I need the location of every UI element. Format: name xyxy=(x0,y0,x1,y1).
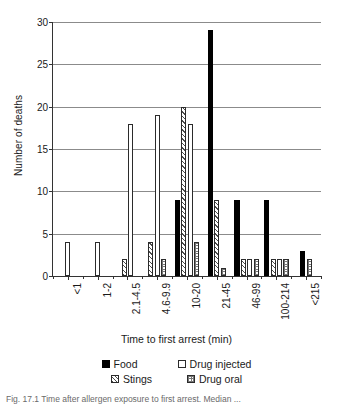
x-tick-minor xyxy=(202,276,203,279)
plot-area: 051015202530 <11-22.1-4.54.6-9.910-2021-… xyxy=(52,22,321,277)
y-axis-title: Number of deaths xyxy=(13,76,24,196)
legend-item-food: Food xyxy=(102,358,164,370)
y-tick-label: 20 xyxy=(37,101,48,112)
chart-legend: Food Drug injected Stings Drug oral xyxy=(0,358,353,388)
bar-stings-6 xyxy=(241,259,246,276)
x-tick-mark xyxy=(68,276,69,280)
bar-food-7 xyxy=(264,200,269,276)
x-tick-minor xyxy=(83,276,84,279)
x-tick-mark xyxy=(306,276,307,280)
x-tick-mark xyxy=(157,276,158,280)
x-tick-minor xyxy=(291,276,292,279)
bar-injected-6 xyxy=(247,259,252,276)
legend-label-drug-injected: Drug injected xyxy=(190,358,252,370)
legend-swatch-drug-oral-icon xyxy=(187,375,195,383)
x-tick-minor xyxy=(261,276,262,279)
bar-stings-4 xyxy=(181,107,186,276)
bar-stings-2 xyxy=(122,259,127,276)
x-tick-mark xyxy=(276,276,277,280)
x-tick-label: 21-45 xyxy=(221,283,232,309)
x-tick-mark xyxy=(217,276,218,280)
legend-item-stings: Stings xyxy=(111,373,173,385)
bar-oral-5 xyxy=(221,268,226,276)
x-tick-mark xyxy=(187,276,188,280)
x-tick-label: 10-20 xyxy=(191,283,202,309)
x-tick-label: 4.6-9.9 xyxy=(161,283,172,314)
legend-label-food: Food xyxy=(114,358,138,370)
bar-food-6 xyxy=(234,200,239,276)
x-tick-minor xyxy=(232,276,233,279)
x-tick-mark xyxy=(98,276,99,280)
x-tick-minor xyxy=(172,276,173,279)
figure-caption: Fig. 17.1 Time after allergen exposure t… xyxy=(6,394,351,404)
x-tick-mark xyxy=(127,276,128,280)
y-tick-label: 30 xyxy=(37,17,48,28)
legend-item-drug-oral: Drug oral xyxy=(187,373,242,385)
legend-item-drug-injected: Drug injected xyxy=(178,358,252,370)
bar-injected-1 xyxy=(95,242,100,276)
x-tick-minor xyxy=(53,276,54,279)
bar-injected-0 xyxy=(65,242,70,276)
bar-oral-6 xyxy=(254,259,259,276)
legend-swatch-food-icon xyxy=(102,360,110,368)
bar-injected-7 xyxy=(277,259,282,276)
x-tick-minor xyxy=(142,276,143,279)
bar-food-4 xyxy=(175,200,180,276)
x-tick-label: 1-2 xyxy=(102,283,113,297)
x-tick-label: 100-214 xyxy=(280,283,291,320)
x-tick-minor xyxy=(113,276,114,279)
x-tick-mark xyxy=(247,276,248,280)
bar-food-8 xyxy=(300,251,305,276)
x-tick-label: 46-99 xyxy=(251,283,262,309)
x-tick-label: <1 xyxy=(72,283,83,294)
bar-injected-2 xyxy=(128,124,133,276)
bar-food-5 xyxy=(208,30,213,276)
legend-swatch-drug-injected-icon xyxy=(178,360,186,368)
bar-oral-7 xyxy=(283,259,288,276)
chart-figure: Number of deaths 051015202530 <11-22.1-4… xyxy=(0,0,353,404)
bar-injected-4 xyxy=(188,124,193,276)
x-tick-minor xyxy=(321,276,322,279)
bar-oral-8 xyxy=(307,259,312,276)
legend-label-drug-oral: Drug oral xyxy=(199,373,242,385)
y-tick-label: 25 xyxy=(37,59,48,70)
legend-row: Stings Drug oral xyxy=(0,373,353,385)
bar-stings-7 xyxy=(271,259,276,276)
legend-row: Food Drug injected xyxy=(0,358,353,370)
x-axis-title: Time to first arrest (min) xyxy=(0,333,353,345)
y-tick-label: 5 xyxy=(42,228,48,239)
y-tick-label: 0 xyxy=(42,271,48,282)
bar-oral-4 xyxy=(194,242,199,276)
y-tick-label: 10 xyxy=(37,186,48,197)
bar-stings-3 xyxy=(148,242,153,276)
x-tick-label: 2.1-4.5 xyxy=(131,283,142,314)
x-tick-label: <215 xyxy=(310,283,321,306)
bars-layer xyxy=(53,22,321,276)
bar-stings-5 xyxy=(214,200,219,276)
bar-oral-3 xyxy=(161,259,166,276)
bar-injected-3 xyxy=(155,115,160,276)
y-tick-label: 15 xyxy=(37,144,48,155)
legend-label-stings: Stings xyxy=(123,373,152,385)
legend-swatch-stings-icon xyxy=(111,375,119,383)
